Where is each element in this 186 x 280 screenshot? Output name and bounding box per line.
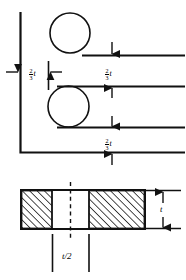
technical-drawing: 2 3 t 2 3 t 2 3 t t t/2 — [0, 0, 185, 280]
left-plate-block — [22, 191, 53, 229]
diagram-canvas — [0, 0, 185, 280]
thickness-label: t — [160, 205, 162, 214]
right-plate-block — [89, 191, 145, 229]
pitch-bottom-label: 2 3 t — [105, 133, 112, 151]
upper-view-group — [6, 12, 185, 165]
upper-rivet-circle — [50, 13, 90, 53]
half-thickness-label: t/2 — [62, 252, 72, 261]
pitch-top-label: 2 3 t — [105, 63, 112, 81]
lower-rivet-circle — [48, 86, 89, 127]
lower-view-group — [21, 182, 181, 272]
member-outline — [21, 12, 186, 153]
edge-distance-label: 2 3 t — [29, 63, 36, 81]
